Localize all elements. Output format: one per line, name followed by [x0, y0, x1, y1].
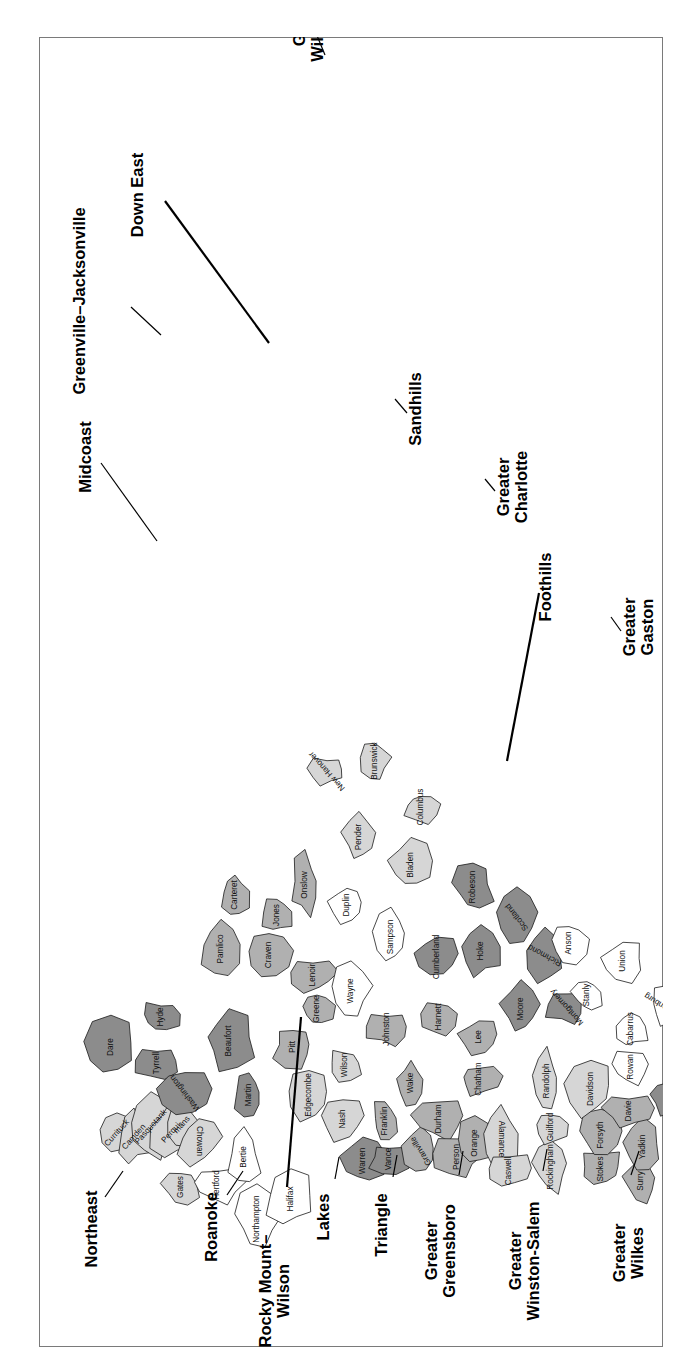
county-label: Orange	[470, 1129, 479, 1157]
region-label: GreaterGreensboro	[422, 1204, 458, 1298]
map-frame: CurrituckCamdenPasquotankPerqui-mansChow…	[39, 37, 663, 1347]
region-label: Foothills	[536, 553, 554, 622]
region-label: Midcoast	[76, 421, 94, 493]
county-label: Bertie	[239, 1146, 248, 1168]
county-label: Greene	[312, 995, 321, 1023]
county-label: Surry	[636, 1170, 645, 1190]
region-leader-line	[131, 307, 161, 335]
county-label: Caswell	[504, 1156, 513, 1185]
region-label: Lakes	[314, 1194, 332, 1241]
region-label: GreaterCharlotte	[494, 451, 530, 523]
county-label: Moore	[516, 997, 525, 1021]
county-label: Stokes	[596, 1156, 605, 1181]
county-label: Brunswick	[370, 741, 379, 779]
county-label: Gates	[176, 1176, 185, 1198]
county-label: Edgecombe	[304, 1073, 313, 1117]
region-label: GreaterWilkes	[610, 1223, 646, 1282]
region-leader-line	[335, 1157, 339, 1179]
county-label: Columbus	[416, 789, 425, 826]
county-label: Craven	[264, 941, 273, 968]
county-label: Rowan	[626, 1054, 635, 1080]
county-label: Anson	[564, 931, 573, 955]
county-label: Guilford	[546, 1112, 555, 1141]
county-label: Hoke	[476, 941, 485, 961]
county-label: Randolph	[542, 1063, 551, 1098]
county-label: Sampson	[386, 919, 395, 954]
county-label: Onslow	[300, 871, 309, 898]
county-label: Vance	[384, 1147, 393, 1170]
county-label: Warren	[358, 1147, 367, 1174]
region-leader-line	[105, 1171, 123, 1197]
county-label: Davidson	[586, 1071, 595, 1106]
county-label: Cabarrus	[626, 1012, 635, 1046]
north-carolina-map-svg[interactable]: CurrituckCamdenPasquotankPerqui-mansChow…	[39, 37, 663, 1347]
region-label: Sandhills	[406, 372, 424, 445]
county-label: Harnett	[434, 1003, 443, 1031]
county-label: Cumberland	[432, 934, 441, 979]
region-label: Northeast	[82, 1190, 100, 1268]
counties-layer	[84, 743, 663, 1247]
county-label: Carteret	[230, 879, 239, 909]
county-label: Halifax	[286, 1186, 295, 1211]
county-label: Rockingham	[546, 1144, 555, 1190]
county-label: Wayne	[346, 978, 355, 1004]
county-shape[interactable]	[464, 1066, 503, 1096]
county-label: Tyrrell	[152, 1052, 161, 1074]
county-label: Union	[618, 950, 627, 972]
county-label: Lee	[474, 1030, 483, 1044]
county-label: Jones	[272, 904, 281, 926]
county-label: Franklin	[380, 1106, 389, 1136]
region-label: Roanoke	[202, 1192, 220, 1262]
page-root: CurrituckCamdenPasquotankPerqui-mansChow…	[0, 0, 685, 1370]
county-label: Yadkin	[638, 1134, 647, 1159]
county-label: Hyde	[156, 1007, 165, 1027]
region-leader-line	[101, 463, 157, 541]
county-label: Alamance	[497, 1121, 506, 1158]
county-label: Person	[452, 1144, 461, 1170]
county-label: Dare	[106, 1038, 115, 1056]
county-label: Pitt	[288, 1040, 297, 1053]
region-label: GreaterGaston	[620, 597, 656, 656]
county-label: Martin	[244, 1083, 253, 1106]
county-label: Robeson	[468, 870, 477, 903]
region-label: Down East	[128, 152, 146, 237]
county-label: Chowan	[195, 1126, 204, 1156]
region-leader-line	[507, 593, 539, 761]
region-label: Triangle	[372, 1193, 390, 1256]
region-label: Rocky Mount–Wilson	[256, 1235, 292, 1347]
county-label: Beaufort	[224, 1025, 233, 1057]
county-label: Pender	[354, 824, 363, 851]
county-label: Pamlico	[216, 934, 225, 964]
county-label: Chatham	[474, 1062, 483, 1095]
county-label: Nash	[338, 1109, 347, 1129]
county-label: Wilson	[340, 1052, 349, 1077]
region-leader-line	[165, 201, 269, 343]
county-label: Stanly	[582, 983, 591, 1007]
map-rotor: CurrituckCamdenPasquotankPerqui-mansChow…	[39, 37, 663, 1347]
county-label: Davie	[624, 1100, 633, 1121]
county-label: Wake	[406, 1072, 415, 1093]
region-label: GreaterWinston-Salem	[506, 1201, 542, 1320]
county-label: Johnston	[382, 1012, 391, 1046]
county-label: Durham	[434, 1104, 443, 1133]
county-label: Bladen	[406, 852, 415, 878]
region-label: GreaterWilmington	[290, 37, 326, 62]
county-label: Duplin	[342, 893, 351, 917]
region-label: Greenville–Jacksonville	[70, 207, 88, 394]
county-label: Forsyth	[596, 1121, 605, 1149]
county-label: Lenoir	[308, 963, 317, 986]
